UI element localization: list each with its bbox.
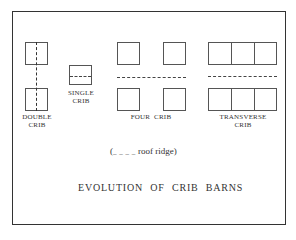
single-crib-label: SINGLE CRIB (60, 89, 102, 105)
single-crib-label-line1: SINGLE (60, 89, 102, 97)
diagram-title: EVOLUTION OF CRIB BARNS (78, 182, 243, 193)
four-crib-bottom-right-crib (163, 88, 186, 111)
transverse-crib-bottom-crib-1 (208, 88, 232, 111)
four-crib-top-right-crib (163, 42, 186, 65)
transverse-crib-label-line1: TRANSVERSE (212, 113, 274, 121)
double-crib-label: DOUBLE CRIB (16, 113, 58, 129)
transverse-crib-label: TRANSVERSE CRIB (212, 113, 274, 129)
double-crib-label-line2: CRIB (16, 121, 58, 129)
transverse-crib-bottom-crib-2 (231, 88, 255, 111)
single-crib-label-line2: CRIB (60, 97, 102, 105)
four-crib-label: FOUR CRIB (120, 113, 182, 121)
legend-text: roof ridge) (138, 146, 177, 156)
double-crib-roof-ridge (36, 42, 37, 111)
four-crib-bottom-left-crib (117, 88, 140, 111)
transverse-crib-top-crib-2 (231, 42, 255, 65)
single-crib-roof-ridge (70, 76, 91, 77)
transverse-crib-roof-ridge (208, 76, 277, 77)
transverse-crib-label-line2: CRIB (212, 121, 274, 129)
four-crib-roof-ridge (117, 77, 186, 78)
four-crib-top-left-crib (117, 42, 140, 65)
double-crib-label-line1: DOUBLE (16, 113, 58, 121)
roof-ridge-legend: (_ _ _ _ roof ridge) (110, 146, 177, 156)
four-crib-label-line1: FOUR CRIB (120, 113, 182, 121)
transverse-crib-bottom-crib-3 (254, 88, 277, 111)
legend-dash-symbol: _ _ _ _ (113, 148, 136, 156)
single-crib-crib (69, 65, 92, 85)
transverse-crib-top-crib-3 (254, 42, 277, 65)
transverse-crib-top-crib-1 (208, 42, 232, 65)
